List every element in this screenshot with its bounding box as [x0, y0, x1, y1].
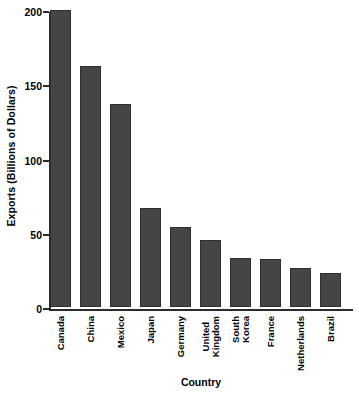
bar: [200, 240, 221, 307]
bar: [50, 10, 71, 307]
x-axis-tick-label: Brazil: [320, 314, 341, 376]
bar: [110, 104, 131, 307]
x-axis-tick-label: Mexico: [110, 314, 131, 376]
plot-area: [49, 12, 353, 311]
x-axis-tick-label-text: China: [86, 316, 96, 342]
bar: [320, 273, 341, 307]
y-axis-tick-label: 0: [16, 303, 42, 315]
y-axis-tick-labels: 050100150200: [12, 0, 42, 320]
x-axis-tick-label-text: Canada: [56, 316, 66, 350]
x-axis-tick-label: United Kingdom: [200, 314, 221, 376]
y-axis-tick-label: 200: [16, 6, 42, 18]
x-axis-tick-label: Japan: [140, 314, 161, 376]
x-axis-tick-label-text: Netherlands: [296, 316, 306, 371]
x-axis-title: Country: [49, 376, 353, 388]
x-axis-tick-label: South Korea: [230, 314, 251, 376]
x-axis-tick-label: Canada: [50, 314, 71, 376]
x-axis-tick-label: Germany: [170, 314, 191, 376]
x-axis-tick-label: China: [80, 314, 101, 376]
y-axis-tick-label: 150: [16, 80, 42, 92]
x-axis-tick-label: France: [260, 314, 281, 376]
y-axis-tick-label: 100: [16, 155, 42, 167]
x-axis-tick-label-text: Brazil: [326, 316, 336, 342]
x-axis-tick-label-text: United Kingdom: [201, 316, 221, 357]
x-axis-tick-label: Netherlands: [290, 314, 311, 376]
bars-layer: [49, 12, 353, 309]
x-axis-tick-label-text: France: [266, 316, 276, 347]
y-axis-tick-label: 50: [16, 229, 42, 241]
bar: [290, 268, 311, 307]
x-axis-tick-labels: CanadaChinaMexicoJapanGermanyUnited King…: [49, 314, 353, 376]
bar: [230, 258, 251, 307]
bar-chart: Exports (Billions of Dollars) 0501001502…: [0, 0, 359, 395]
x-axis-line: [49, 309, 353, 311]
bar: [140, 208, 161, 307]
x-axis-tick-label-text: Germany: [176, 316, 186, 357]
bar: [170, 227, 191, 307]
bar: [260, 259, 281, 307]
bar: [80, 66, 101, 307]
x-axis-tick-label-text: Mexico: [116, 316, 126, 348]
x-axis-tick-label-text: South Korea: [231, 316, 251, 343]
x-axis-tick-label-text: Japan: [146, 316, 156, 343]
